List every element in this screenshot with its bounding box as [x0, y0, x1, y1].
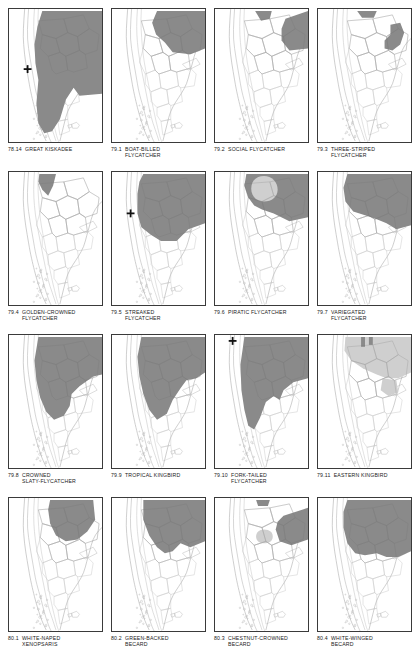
map-cell: 79.10FORK-TAILED FLYCATCHER [214, 334, 310, 497]
map-cell: 80.3CHESTNUT-CROWNED BECARD [214, 497, 310, 655]
range-map-79-1[interactable] [111, 8, 206, 143]
range-shading [240, 337, 308, 430]
species-name: CHESTNUT-CROWNED BECARD [228, 635, 310, 648]
map-cell: 79.5STREAKED FLYCATCHER [111, 171, 207, 334]
map-caption: 79.6PIRATIC FLYCATCHER [214, 309, 310, 315]
map-caption: 79.1BOAT-BILLED FLYCATCHER [111, 146, 207, 159]
range-shading [255, 11, 308, 50]
species-name: TROPICAL KINGBIRD [125, 472, 207, 478]
map-number: 79.6 [214, 309, 228, 315]
map-number: 80.2 [111, 635, 125, 641]
map-number: 79.1 [111, 146, 125, 152]
range-shading [357, 11, 404, 50]
map-number: 79.3 [317, 146, 331, 152]
base-geography [23, 172, 102, 305]
range-map-79-8[interactable] [8, 334, 103, 469]
range-map-plate: 78.14GREAT KISKADEE79.1BOAT-BILLED FLYCA… [0, 0, 414, 655]
range-shading [344, 337, 411, 396]
map-number: 80.4 [317, 635, 331, 641]
map-number: 79.10 [214, 472, 231, 478]
range-shading [343, 174, 411, 229]
range-shading [34, 11, 102, 133]
map-caption: 80.3CHESTNUT-CROWNED BECARD [214, 635, 310, 648]
species-name: STREAKED FLYCATCHER [125, 309, 207, 322]
map-caption: 79.3THREE-STRIPED FLYCATCHER [317, 146, 413, 159]
map-cell: 80.4WHITE-WINGED BECARD [317, 497, 413, 655]
map-caption: 79.10FORK-TAILED FLYCATCHER [214, 472, 310, 485]
range-map-79-7[interactable] [317, 171, 412, 306]
range-polygon-dark [343, 500, 411, 557]
map-caption: 79.7VARIEGATED FLYCATCHER [317, 309, 413, 322]
map-number: 79.4 [8, 309, 22, 315]
range-polygon-dark [385, 23, 405, 51]
range-map-79-6[interactable] [214, 171, 309, 306]
range-polygon-light [381, 378, 399, 396]
map-caption: 78.14GREAT KISKADEE [8, 146, 104, 152]
map-grid: 78.14GREAT KISKADEE79.1BOAT-BILLED FLYCA… [8, 8, 409, 655]
range-shading [137, 174, 205, 241]
species-name: FORK-TAILED FLYCATCHER [231, 472, 310, 485]
range-map-80-3[interactable] [214, 497, 309, 632]
map-cell: 79.6PIRATIC FLYCATCHER [214, 171, 310, 334]
range-map-80-1[interactable] [8, 497, 103, 632]
map-cell: 79.1BOAT-BILLED FLYCATCHER [111, 8, 207, 171]
locality-cross-marker [24, 65, 32, 73]
range-shading [143, 500, 205, 553]
map-number: 80.3 [214, 635, 228, 641]
species-name: EASTERN KINGBIRD [334, 472, 413, 478]
map-caption: 79.8CROWNED SLATY-FLYCATCHER [8, 472, 104, 485]
map-number: 79.2 [214, 146, 228, 152]
range-polygon-dark [240, 337, 308, 430]
map-number: 79.9 [111, 472, 125, 478]
map-cell: 79.2SOCIAL FLYCATCHER [214, 8, 310, 171]
range-polygon-dark [137, 174, 205, 241]
map-cell: 79.8CROWNED SLATY-FLYCATCHER [8, 334, 104, 497]
species-name: GREEN-BACKED BECARD [125, 635, 207, 648]
locality-cross-marker [127, 209, 135, 217]
map-number: 79.8 [8, 472, 22, 478]
species-name: THREE-STRIPED FLYCATCHER [331, 146, 413, 159]
range-map-79-11[interactable] [317, 334, 412, 469]
map-caption: 79.9TROPICAL KINGBIRD [111, 472, 207, 478]
map-number: 80.1 [8, 635, 22, 641]
map-caption: 79.11EASTERN KINGBIRD [317, 472, 413, 478]
range-map-79-10[interactable] [214, 334, 309, 469]
range-polygon-dark [343, 174, 411, 229]
map-caption: 80.2GREEN-BACKED BECARD [111, 635, 207, 648]
range-map-78-14[interactable] [8, 8, 103, 143]
map-cell: 79.11EASTERN KINGBIRD [317, 334, 413, 497]
map-caption: 79.2SOCIAL FLYCATCHER [214, 146, 310, 152]
range-map-79-4[interactable] [8, 171, 103, 306]
species-name: WHITE-WINGED BECARD [331, 635, 413, 648]
range-shading [244, 174, 308, 221]
species-name: GOLDEN-CROWNED FLYCATCHER [22, 309, 104, 322]
range-map-79-2[interactable] [214, 8, 309, 143]
species-name: VARIEGATED FLYCATCHER [331, 309, 413, 322]
map-number: 79.11 [317, 472, 334, 478]
species-name: SOCIAL FLYCATCHER [228, 146, 310, 152]
range-shading [343, 500, 411, 557]
range-map-79-9[interactable] [111, 334, 206, 469]
map-caption: 79.5STREAKED FLYCATCHER [111, 309, 207, 322]
range-polygon-dark [357, 11, 377, 18]
range-polygon-dark [276, 508, 308, 545]
range-map-79-3[interactable] [317, 8, 412, 143]
map-number: 78.14 [8, 146, 25, 152]
map-cell: 79.9TROPICAL KINGBIRD [111, 334, 207, 497]
range-map-80-4[interactable] [317, 497, 412, 632]
range-polygon-light [344, 337, 411, 378]
range-polygon-dark [152, 11, 205, 54]
range-map-80-2[interactable] [111, 497, 206, 632]
map-caption: 80.1WHITE-NAPED XENOPSARIS [8, 635, 104, 648]
species-name: PIRATIC FLYCATCHER [228, 309, 310, 315]
range-polygon-dark [369, 337, 373, 345]
species-name: CROWNED SLATY-FLYCATCHER [22, 472, 104, 485]
map-cell: 80.2GREEN-BACKED BECARD [111, 497, 207, 655]
range-shading [256, 500, 308, 545]
map-cell: 79.7VARIEGATED FLYCATCHER [317, 171, 413, 334]
map-number: 79.7 [317, 309, 331, 315]
range-polygon-dark [143, 500, 205, 553]
range-map-79-5[interactable] [111, 171, 206, 306]
map-cell: 79.3THREE-STRIPED FLYCATCHER [317, 8, 413, 171]
species-name: WHITE-NAPED XENOPSARIS [22, 635, 104, 648]
